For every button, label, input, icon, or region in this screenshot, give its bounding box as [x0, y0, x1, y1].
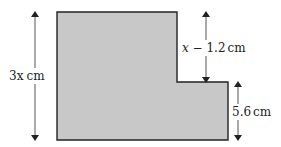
step-height-label: x − 1.2cm	[182, 41, 246, 55]
left-height-label: 3xcm	[9, 69, 45, 83]
l-shape-diagram: 3xcm x − 1.2cm 5.6cm	[0, 0, 281, 147]
l-shape	[57, 12, 228, 140]
